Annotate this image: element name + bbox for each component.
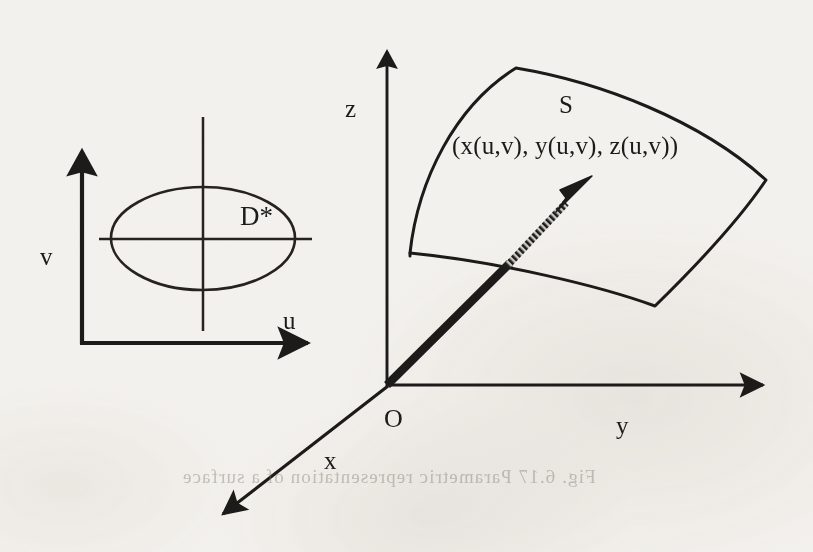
x-axis-label: x	[324, 448, 337, 473]
surface-parametrization-label: (x(u,v), y(u,v), z(u,v))	[452, 133, 678, 158]
v-axis-label: v	[40, 244, 53, 269]
region-d-star-label: D*	[240, 203, 273, 230]
z-axis-label: z	[345, 96, 356, 121]
position-vector-arrowhead	[556, 176, 592, 212]
diagram-svg	[0, 0, 813, 552]
x-axis	[223, 386, 388, 514]
y-axis-label: y	[616, 413, 629, 438]
surface-s-group	[410, 68, 766, 306]
position-vector-solid-segment	[387, 263, 510, 385]
surface-s-label: S	[559, 92, 573, 117]
u-axis-label: u	[283, 308, 296, 333]
surface-s-outline	[410, 68, 766, 306]
position-vector-hatched-outline	[507, 203, 566, 266]
origin-label: O	[384, 406, 403, 432]
uv-plane-group	[80, 117, 312, 344]
figure-canvas: v u D* z y x O S (x(u,v), y(u,v), z(u,v)…	[0, 0, 813, 552]
